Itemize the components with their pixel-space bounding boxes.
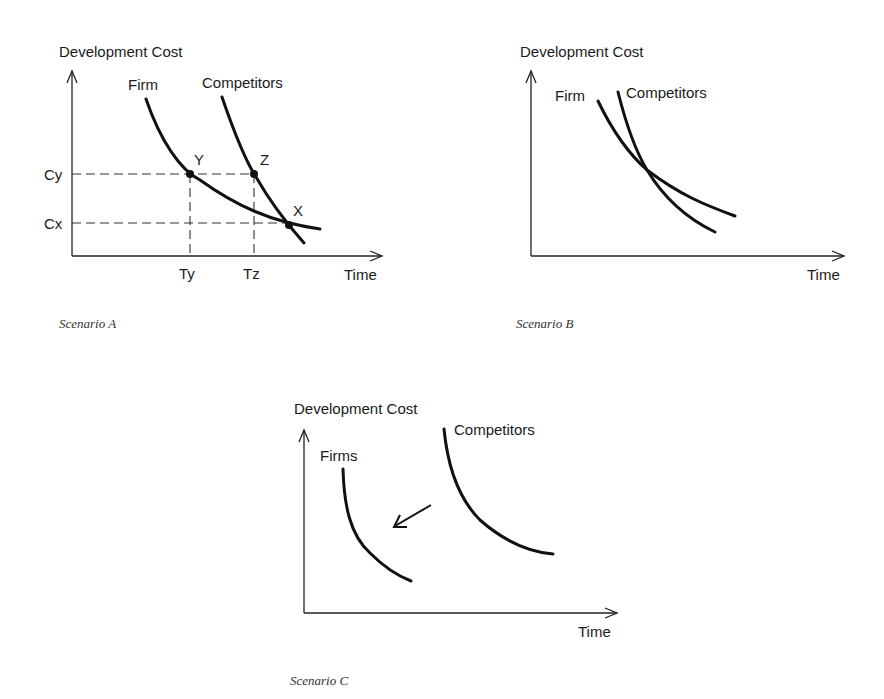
- scenario-a-y-point-label: Y: [194, 151, 204, 168]
- scenario-b-y-label: Development Cost: [520, 43, 644, 60]
- scenario-a-competitors-label: Competitors: [202, 74, 283, 91]
- scenario-a-x-point-label: X: [293, 202, 303, 219]
- scenario-a-x-label: Time: [344, 266, 377, 283]
- scenario-a-z-point-label: Z: [260, 151, 269, 168]
- scenario-a-point-y: [186, 170, 194, 178]
- scenario-a-competitors-curve: [222, 97, 304, 243]
- scenario-b-firm-curve: [598, 101, 735, 216]
- scenario-c-firms-label: Firms: [320, 447, 358, 464]
- scenario-c-competitors-label: Competitors: [454, 421, 535, 438]
- scenario-a-point-x: [285, 221, 293, 229]
- scenario-a-firm-label: Firm: [128, 76, 158, 93]
- scenario-c-firms-curve: [343, 469, 411, 581]
- scenario-a-cy-label: Cy: [44, 166, 63, 183]
- scenario-a-point-z: [250, 170, 258, 178]
- scenario-c-caption: Scenario C: [290, 673, 348, 688]
- scenario-b-firm-label: Firm: [555, 87, 585, 104]
- scenario-a-y-label: Development Cost: [59, 43, 183, 60]
- scenario-a-tz-label: Tz: [243, 265, 260, 282]
- scenario-c-competitors-curve: [444, 429, 553, 554]
- scenario-b-competitors-label: Competitors: [626, 84, 707, 101]
- scenario-a-cx-label: Cx: [44, 215, 63, 232]
- scenario-a-ty-label: Ty: [179, 265, 195, 282]
- scenario-b-x-label: Time: [807, 266, 840, 283]
- scenario-c: Development Cost Time Firms Competitors …: [290, 400, 617, 688]
- scenario-b: Development Cost Time Firm Competitors S…: [516, 43, 844, 331]
- scenario-c-x-label: Time: [578, 623, 611, 640]
- scenario-b-competitors-curve: [618, 92, 715, 232]
- scenario-a: Development Cost Time Cy Cx Ty Tz Firm C…: [44, 43, 382, 331]
- scenario-c-y-label: Development Cost: [294, 400, 418, 417]
- scenario-a-caption: Scenario A: [59, 316, 116, 331]
- diagram-canvas: Development Cost Time Cy Cx Ty Tz Firm C…: [0, 0, 884, 699]
- scenario-b-caption: Scenario B: [516, 316, 573, 331]
